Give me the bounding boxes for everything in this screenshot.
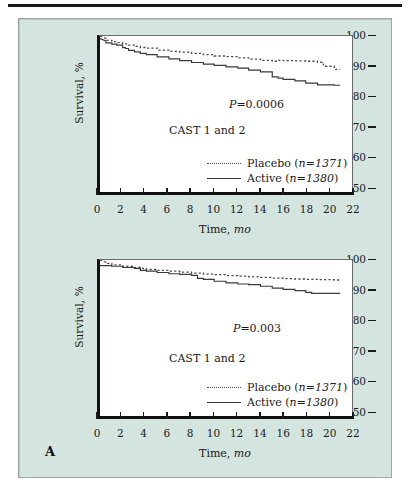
x-tick-mark	[120, 412, 122, 419]
x-tick-mark	[189, 188, 191, 195]
y-tick-mark	[368, 259, 376, 261]
figure-panel: Survival, % 100 90 80 70 60 50 P=0.0006 …	[18, 18, 392, 478]
x-tick-mark	[329, 188, 331, 195]
x-tick-12-bottom: 12	[224, 419, 250, 439]
y-tick-mark	[368, 350, 376, 352]
p-value-top: P=0.0006	[229, 98, 284, 111]
y-tick-mark	[368, 96, 376, 98]
x-tick-6-bottom: 6	[154, 419, 180, 439]
legend-item-placebo-top: Placebo (n=1371)	[207, 156, 347, 171]
p-number: =0.003	[240, 322, 281, 335]
legend-bottom: Placebo (n=1371) Active (n=1380)	[207, 380, 347, 410]
x-tick-0-bottom: 0	[84, 419, 110, 439]
top-divider-rule	[8, 4, 402, 7]
x-tick-mark	[282, 188, 284, 195]
x-tick-mark	[352, 188, 354, 195]
y-tick-mark	[368, 157, 376, 159]
legend-label-active: Active (n=1380)	[247, 172, 338, 185]
legend-item-active-bottom: Active (n=1380)	[207, 395, 347, 410]
x-tick-mark	[166, 412, 168, 419]
y-tick-mark	[368, 188, 376, 190]
x-tick-18-bottom: 18	[294, 419, 320, 439]
active-curve-top	[100, 39, 340, 86]
panel-letter-a: A	[45, 444, 55, 459]
x-tick-mark	[120, 188, 122, 195]
chart-top: Survival, % 100 90 80 70 60 50 P=0.0006 …	[41, 27, 377, 249]
x-tick-18-top: 18	[294, 195, 320, 215]
x-tick-14-bottom: 14	[247, 419, 273, 439]
legend-label-placebo: Placebo (n=1371)	[247, 157, 347, 170]
x-tick-mark	[213, 188, 215, 195]
x-axis-label-top: Time, mo	[97, 223, 353, 236]
dotted-line-key-icon	[207, 159, 241, 169]
x-tick-12-top: 12	[224, 195, 250, 215]
legend-item-active-top: Active (n=1380)	[207, 171, 347, 186]
figure-root: Survival, % 100 90 80 70 60 50 P=0.0006 …	[0, 0, 410, 490]
y-tick-mark	[368, 289, 376, 291]
y-tick-mark	[368, 65, 376, 67]
y-axis-label-text: Survival,	[73, 296, 85, 348]
placebo-curve-bottom	[100, 260, 340, 280]
p-value-bottom: P=0.003	[233, 322, 281, 335]
y-tick-mark	[368, 35, 376, 37]
x-tick-mark	[213, 412, 215, 419]
x-tick-4-top: 4	[131, 195, 157, 215]
x-tick-16-top: 16	[270, 195, 296, 215]
x-tick-2-top: 2	[107, 195, 133, 215]
y-axis-label-text: Survival,	[73, 72, 85, 124]
y-axis-label-unit: %	[73, 62, 85, 72]
x-tick-8-bottom: 8	[177, 419, 203, 439]
x-tick-22-bottom: 22	[340, 419, 366, 439]
x-tick-2-bottom: 2	[107, 419, 133, 439]
x-tick-mark	[143, 188, 145, 195]
placebo-curve-top	[100, 36, 340, 69]
x-tick-10-bottom: 10	[200, 419, 226, 439]
y-tick-mark	[368, 320, 376, 322]
x-tick-mark	[352, 412, 354, 419]
dotted-line-key-icon	[207, 383, 241, 393]
x-tick-mark	[282, 412, 284, 419]
legend-top: Placebo (n=1371) Active (n=1380)	[207, 156, 347, 186]
x-tick-8-top: 8	[177, 195, 203, 215]
trial-label-top: CAST 1 and 2	[169, 124, 245, 137]
x-tick-6-top: 6	[154, 195, 180, 215]
x-tick-mark	[96, 188, 98, 195]
x-tick-10-top: 10	[200, 195, 226, 215]
x-tick-mark	[306, 412, 308, 419]
y-tick-mark	[368, 381, 376, 383]
y-axis-label-top: Survival, %	[73, 53, 85, 133]
legend-item-placebo-bottom: Placebo (n=1371)	[207, 380, 347, 395]
y-axis-label-bottom: Survival, %	[73, 277, 85, 357]
y-tick-mark	[368, 126, 376, 128]
legend-label-active: Active (n=1380)	[247, 396, 338, 409]
x-tick-mark	[259, 412, 261, 419]
x-tick-mark	[236, 188, 238, 195]
y-axis-label-unit: %	[73, 286, 85, 296]
x-tick-mark	[189, 412, 191, 419]
x-tick-mark	[259, 188, 261, 195]
x-tick-mark	[166, 188, 168, 195]
x-axis-ticks-top: 0 2 4 6 8 10 12 14 16 18 20 22	[97, 195, 353, 225]
x-tick-14-top: 14	[247, 195, 273, 215]
x-tick-20-top: 20	[317, 195, 343, 215]
p-number: =0.0006	[236, 98, 284, 111]
trial-label-bottom: CAST 1 and 2	[169, 352, 245, 365]
x-tick-mark	[306, 188, 308, 195]
x-tick-mark	[143, 412, 145, 419]
x-tick-22-top: 22	[340, 195, 366, 215]
legend-label-placebo: Placebo (n=1371)	[247, 381, 347, 394]
solid-line-key-icon	[207, 398, 241, 408]
y-tick-mark	[368, 412, 376, 414]
x-tick-16-bottom: 16	[270, 419, 296, 439]
x-tick-20-bottom: 20	[317, 419, 343, 439]
x-tick-mark	[96, 412, 98, 419]
x-tick-mark	[329, 412, 331, 419]
x-axis-ticks-bottom: 0 2 4 6 8 10 12 14 16 18 20 22	[97, 419, 353, 449]
x-tick-4-bottom: 4	[131, 419, 157, 439]
x-tick-mark	[236, 412, 238, 419]
chart-bottom: Survival, % 100 90 80 70 60 50 P=0.003 C…	[41, 251, 377, 473]
solid-line-key-icon	[207, 174, 241, 184]
x-axis-label-bottom: Time, mo	[97, 447, 353, 460]
x-tick-0-top: 0	[84, 195, 110, 215]
